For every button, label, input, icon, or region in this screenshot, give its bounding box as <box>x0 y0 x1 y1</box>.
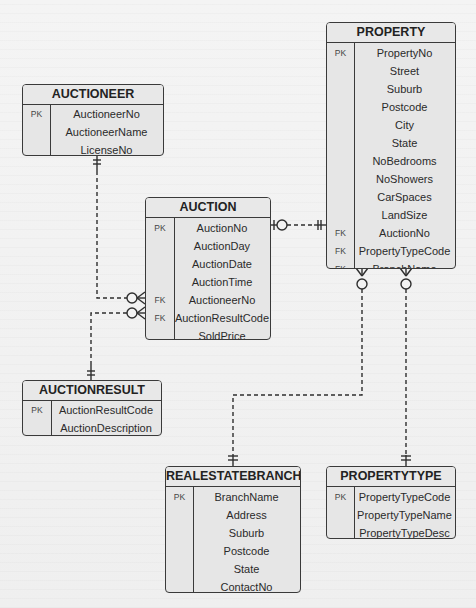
attribute-name: Suburb <box>354 80 455 98</box>
attribute-row: NoBedrooms <box>327 152 455 170</box>
attribute-name: PropertyTypeCode <box>354 242 455 260</box>
entity-auctioneer[interactable]: AUCTIONEER PKAuctioneerNo AuctioneerName… <box>22 84 164 156</box>
attribute-row: Postcode <box>166 542 300 560</box>
attribute-name: AuctionResultCode <box>174 309 270 327</box>
attribute-name: PropertyNo <box>354 44 455 62</box>
attribute-row: Address <box>166 506 300 524</box>
entity-title: PROPERTYTYPE <box>327 467 455 487</box>
attribute-row: PKBranchName <box>166 488 300 506</box>
entity-propertytype[interactable]: PROPERTYTYPE PKPropertyTypeCode Property… <box>326 466 456 539</box>
attribute-row: State <box>327 134 455 152</box>
attribute-name: State <box>354 134 455 152</box>
attribute-name: AuctionDate <box>174 255 270 273</box>
key-badge: PK <box>23 401 51 419</box>
attribute-row: Street <box>327 62 455 80</box>
attribute-name: AuctionDay <box>174 237 270 255</box>
attribute-name: PropertyTypeCode <box>354 488 455 506</box>
attribute-name: AuctioneerNo <box>174 291 270 309</box>
attribute-name: Postcode <box>193 542 300 560</box>
attribute-row: ContactNo <box>166 578 300 593</box>
attribute-name: AuctionTime <box>174 273 270 291</box>
attribute-row: SoldPrice <box>146 327 270 340</box>
attribute-name: Suburb <box>193 524 300 542</box>
key-badge: FK <box>327 260 354 269</box>
attribute-row: AuctionTime <box>146 273 270 291</box>
relationship-auctioneer-auction <box>93 155 145 304</box>
attribute-row: PKPropertyNo <box>327 44 455 62</box>
attribute-name: AuctionDescription <box>51 419 161 436</box>
attribute-name: AuctioneerNo <box>50 105 163 123</box>
attribute-row: PKAuctionNo <box>146 219 270 237</box>
attribute-name: City <box>354 116 455 134</box>
entity-title: AUCTION <box>146 198 270 218</box>
attribute-row: PKAuctionResultCode <box>23 401 161 419</box>
entity-property[interactable]: PROPERTY PKPropertyNo Street Suburb Post… <box>326 22 456 269</box>
attribute-row: FKBranchName <box>327 260 455 269</box>
attribute-name: Street <box>354 62 455 80</box>
attribute-name: LandSize <box>354 206 455 224</box>
attribute-name: NoBedrooms <box>354 152 455 170</box>
attribute-row: FKAuctioneerNo <box>146 291 270 309</box>
key-badge: PK <box>23 105 50 123</box>
attribute-row: PropertyTypeDesc <box>327 524 455 539</box>
entity-title: AUCTIONRESULT <box>23 381 161 401</box>
entity-title: PROPERTY <box>327 23 455 43</box>
entity-title: AUCTIONEER <box>23 85 163 105</box>
attribute-row: City <box>327 116 455 134</box>
attribute-row: LandSize <box>327 206 455 224</box>
attribute-name: SoldPrice <box>174 327 270 340</box>
attribute-name: Postcode <box>354 98 455 116</box>
attribute-row: AuctionDate <box>146 255 270 273</box>
attribute-name: LicenseNo <box>50 141 163 156</box>
attribute-name: BranchName <box>354 260 455 269</box>
attribute-row: FKPropertyTypeCode <box>327 242 455 260</box>
key-badge: FK <box>146 291 174 309</box>
attribute-row: AuctioneerName <box>23 123 163 141</box>
entity-realestatebranch[interactable]: REALESTATEBRANCH PKBranchName Address Su… <box>165 466 301 593</box>
attribute-name: ContactNo <box>193 578 300 593</box>
attribute-row: CarSpaces <box>327 188 455 206</box>
attribute-name: NoShowers <box>354 170 455 188</box>
key-badge: PK <box>146 219 174 237</box>
key-badge: PK <box>327 44 354 62</box>
attribute-row: PropertyTypeName <box>327 506 455 524</box>
attribute-name: AuctionResultCode <box>51 401 161 419</box>
attribute-row: State <box>166 560 300 578</box>
key-badge: FK <box>146 309 174 327</box>
entity-auction[interactable]: AUCTION PKAuctionNo AuctionDay AuctionDa… <box>145 197 271 340</box>
key-badge: PK <box>166 488 193 506</box>
key-badge: FK <box>327 224 354 242</box>
key-badge: FK <box>327 242 354 260</box>
attribute-name: CarSpaces <box>354 188 455 206</box>
attribute-row: PKPropertyTypeCode <box>327 488 455 506</box>
key-badge: PK <box>327 488 354 506</box>
attribute-row: Suburb <box>327 80 455 98</box>
attribute-row: NoShowers <box>327 170 455 188</box>
entity-auctionresult[interactable]: AUCTIONRESULT PKAuctionResultCode Auctio… <box>22 380 162 436</box>
attribute-name: AuctionNo <box>354 224 455 242</box>
relationship-auction-property <box>270 220 326 230</box>
attribute-name: PropertyTypeName <box>354 506 455 524</box>
relationship-property-propertytype <box>400 268 412 466</box>
attribute-row: LicenseNo <box>23 141 163 156</box>
attribute-row: AuctionDay <box>146 237 270 255</box>
attribute-row: FKAuctionNo <box>327 224 455 242</box>
attribute-name: AuctioneerName <box>50 123 163 141</box>
attribute-name: PropertyTypeDesc <box>354 524 455 539</box>
attribute-row: AuctionDescription <box>23 419 161 436</box>
attribute-row: Postcode <box>327 98 455 116</box>
attribute-row: PKAuctioneerNo <box>23 105 163 123</box>
attribute-name: BranchName <box>193 488 300 506</box>
entity-title: REALESTATEBRANCH <box>166 467 300 487</box>
attribute-row: FKAuctionResultCode <box>146 309 270 327</box>
attribute-name: AuctionNo <box>174 219 270 237</box>
attribute-name: State <box>193 560 300 578</box>
attribute-name: Address <box>193 506 300 524</box>
relationship-auctionresult-auction <box>87 307 145 380</box>
attribute-row: Suburb <box>166 524 300 542</box>
